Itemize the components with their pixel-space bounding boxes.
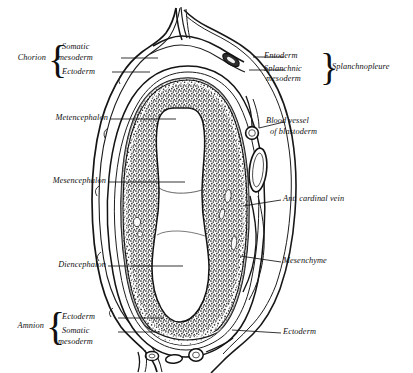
label-ectoderm-bottom-right: Ectoderm bbox=[283, 327, 316, 337]
label-amnion: Amnion bbox=[0, 321, 44, 331]
label-entoderm: Entoderm bbox=[264, 51, 298, 61]
label-somatic-mesoderm-bottom-line2: mesoderm bbox=[58, 337, 93, 347]
chorion-fold-top bbox=[176, 7, 190, 40]
label-somatic-mesoderm-bottom-line1: Somatic bbox=[62, 326, 89, 336]
label-chorion: Chorion bbox=[0, 53, 46, 63]
label-mesencephalon: Mesencephalon bbox=[0, 176, 106, 186]
label-blood-vessel-line1: Blood vessel bbox=[266, 116, 309, 126]
label-somatic-mesoderm-top-line1: Somatic bbox=[62, 42, 89, 52]
label-metencephalon: Metencephalon bbox=[0, 113, 108, 123]
label-diencephalon: Diencephalon bbox=[0, 260, 106, 270]
label-splanchnopleure: Splanchnopleure bbox=[332, 62, 389, 72]
label-mesenchyme: Mesenchyme bbox=[283, 256, 327, 266]
label-blood-vessel-line2: of blastoderm bbox=[270, 127, 317, 137]
blood-vessel-top bbox=[221, 51, 242, 69]
label-splanchnic-mesoderm-line2: mesoderm bbox=[266, 74, 301, 84]
label-ant-cardinal-vein: Ant. cardinal vein bbox=[283, 194, 344, 204]
label-ectoderm-bottom-left: Ectoderm bbox=[62, 312, 95, 322]
label-somatic-mesoderm-top-line2: mesoderm bbox=[58, 53, 93, 63]
label-splanchnic-mesoderm-line1: Splanchnic bbox=[264, 64, 302, 74]
label-ectoderm-top: Ectoderm bbox=[62, 67, 95, 77]
